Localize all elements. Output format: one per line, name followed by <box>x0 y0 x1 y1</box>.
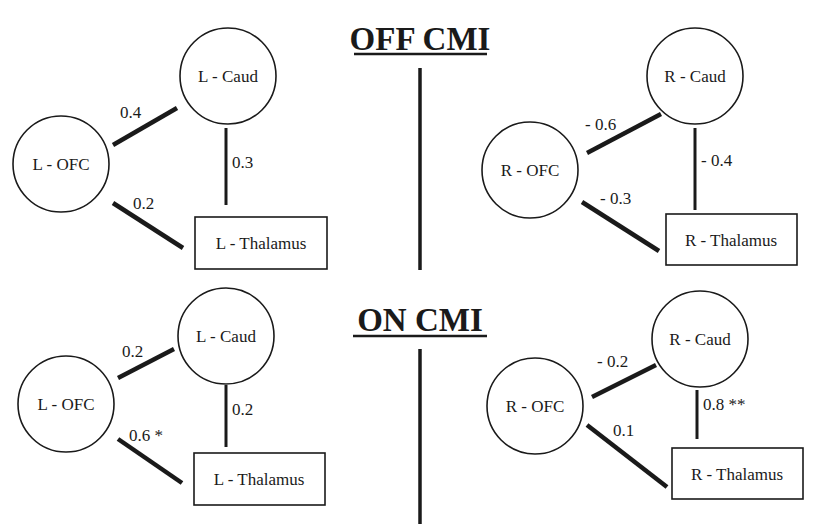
node-label: R - Caud <box>669 330 731 349</box>
edge-label-caud-thalamus: 0.3 <box>232 153 253 172</box>
edge-label-caud-thalamus: 0.8 ** <box>703 395 746 414</box>
on-left-network: L - OFC L - Caud L - Thalamus 0.2 0.6 * … <box>18 288 325 505</box>
node-label: L - OFC <box>38 395 95 414</box>
edge-label-caud-thalamus: - 0.4 <box>701 151 733 170</box>
node-label: L - OFC <box>33 155 90 174</box>
edge-label-ofc-thalamus: - 0.3 <box>600 189 631 208</box>
node-label: L - Thalamus <box>214 470 305 489</box>
on-cmi-title: ON CMI <box>357 302 483 338</box>
connectivity-diagram: OFF CMI ON CMI L - OFC L - Caud L - Thal… <box>0 0 821 524</box>
node-label: L - Thalamus <box>216 234 307 253</box>
edge-ofc-thalamus <box>118 439 182 483</box>
on-cmi-header: ON CMI <box>353 302 487 524</box>
edge-label-ofc-caud: 0.2 <box>122 342 143 361</box>
edge-label-ofc-caud: - 0.6 <box>585 115 616 134</box>
edge-ofc-thalamus <box>582 202 659 251</box>
node-label: R - Thalamus <box>685 231 777 250</box>
node-label: L - Caud <box>196 327 256 346</box>
edge-label-ofc-thalamus: 0.2 <box>133 194 154 213</box>
node-label: R - OFC <box>501 161 560 180</box>
edge-label-ofc-caud: 0.4 <box>120 103 142 122</box>
edge-label-ofc-caud: - 0.2 <box>597 352 628 371</box>
node-label: R - OFC <box>506 397 565 416</box>
node-label: L - Caud <box>198 67 258 86</box>
node-label: R - Caud <box>664 67 726 86</box>
edge-label-ofc-thalamus: 0.6 * <box>129 426 163 445</box>
node-label: R - Thalamus <box>691 465 783 484</box>
edge-label-caud-thalamus: 0.2 <box>232 400 253 419</box>
off-cmi-title: OFF CMI <box>350 21 491 57</box>
off-right-network: R - OFC R - Caud R - Thalamus - 0.6 - 0.… <box>482 28 797 265</box>
on-right-network: R - OFC R - Caud R - Thalamus - 0.2 0.1 … <box>487 291 803 499</box>
off-left-network: L - OFC L - Caud L - Thalamus 0.4 0.2 0.… <box>13 28 327 269</box>
edge-label-ofc-thalamus: 0.1 <box>613 421 634 440</box>
off-cmi-header: OFF CMI <box>350 21 491 270</box>
